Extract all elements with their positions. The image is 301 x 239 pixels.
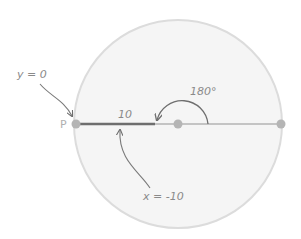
y-equation-label: y = 0 (16, 68, 47, 81)
point-p-label: P (60, 118, 67, 131)
polar-diagram: P 10 180° y = 0 x = -10 (0, 0, 301, 239)
segment-length-label: 10 (118, 108, 132, 121)
y-arrow (40, 84, 72, 116)
point-center (174, 120, 183, 129)
point-p (72, 120, 81, 129)
point-right (277, 120, 286, 129)
angle-label: 180° (190, 85, 217, 98)
x-equation-label: x = -10 (142, 190, 184, 203)
